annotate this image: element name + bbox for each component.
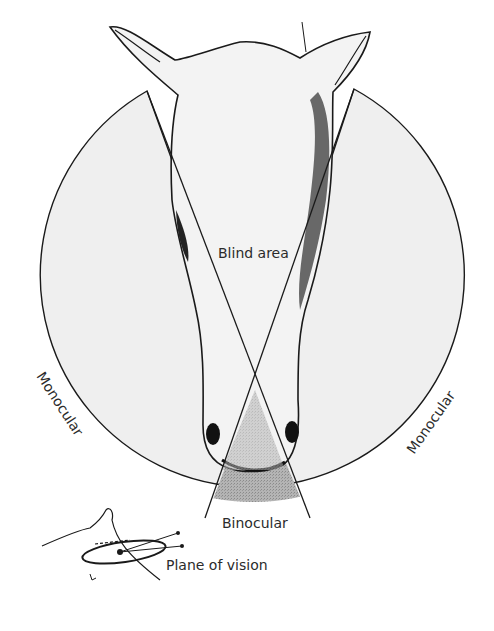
forelock [302, 22, 306, 52]
binocular-label: Binocular [222, 515, 288, 531]
right-nostril [285, 421, 299, 443]
plane-of-vision-inset [42, 509, 184, 580]
horse-vision-diagram: Blind area Monocular Monocular Binocular… [0, 0, 494, 631]
blind-area-label: Blind area [218, 245, 289, 261]
left-nostril [206, 423, 220, 445]
plane-of-vision-label: Plane of vision [166, 557, 268, 573]
